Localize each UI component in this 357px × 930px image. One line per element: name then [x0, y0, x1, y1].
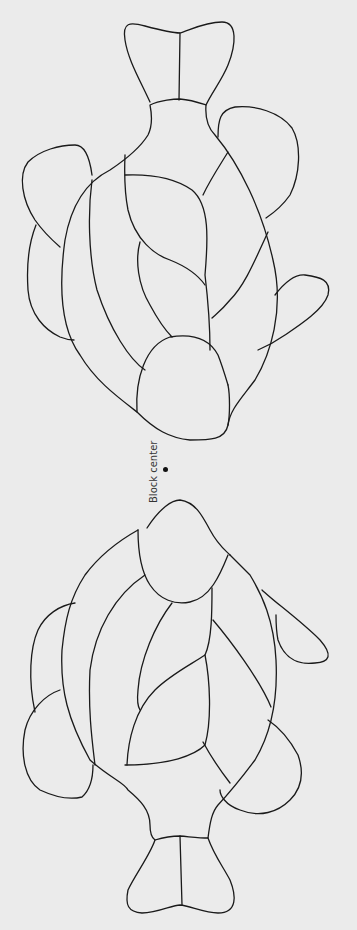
block-center-dot-icon: [163, 467, 168, 472]
block-center-label: Block center: [148, 441, 159, 503]
fish-top: [22, 22, 328, 440]
fish-bottom: [23, 500, 328, 913]
pattern-canvas: [0, 0, 357, 930]
